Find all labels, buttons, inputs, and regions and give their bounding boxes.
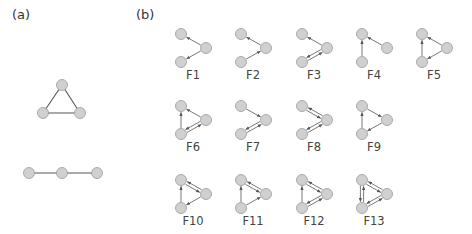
graph-node [357, 29, 368, 40]
directed-edge [186, 51, 200, 59]
graph-node [236, 57, 247, 68]
graph-node [176, 203, 187, 214]
motif-f8: F8 [297, 101, 333, 155]
directed-edge [246, 197, 260, 205]
graph-node [322, 189, 333, 200]
directed-edge [186, 109, 200, 117]
directed-edge [187, 182, 201, 190]
directed-edge [427, 37, 441, 45]
directed-edge [246, 122, 260, 130]
directed-edge [307, 50, 321, 58]
motif-label: F2 [246, 68, 260, 82]
directed-edge [186, 37, 200, 45]
directed-edge [246, 37, 260, 45]
directed-edge [185, 184, 199, 192]
graph-node [236, 101, 247, 112]
directed-edge [308, 198, 322, 206]
graph-line [24, 168, 103, 179]
directed-edge [247, 182, 261, 190]
motif-label: F11 [242, 214, 263, 228]
graph-node [38, 108, 49, 119]
graph-node [176, 101, 187, 112]
graph-node [357, 129, 368, 140]
motif-diagram: F1F2F3F4F5F6F7F8F9F10F11F12F13 [0, 0, 472, 234]
motif-f5: F5 [417, 29, 453, 83]
graph-node [92, 168, 103, 179]
graph-node [24, 168, 35, 179]
graph-node [382, 189, 393, 200]
graph-node [201, 43, 212, 54]
directed-edge [308, 108, 322, 116]
graph-node [176, 175, 187, 186]
graph-node [297, 29, 308, 40]
motif-label: F3 [307, 68, 321, 82]
panel-a-undirected-graphs [24, 80, 103, 179]
graph-node [236, 175, 247, 186]
graph-triangle [38, 80, 86, 119]
graph-node [417, 57, 428, 68]
motif-label: F4 [367, 68, 381, 82]
directed-edge [308, 52, 322, 60]
directed-edge [307, 37, 321, 45]
motif-label: F12 [303, 214, 324, 228]
graph-node [297, 129, 308, 140]
directed-edge [246, 51, 260, 59]
motif-label: F10 [182, 214, 203, 228]
graph-node [236, 129, 247, 140]
directed-edge [367, 109, 381, 117]
motif-label: F7 [246, 140, 260, 154]
directed-edge [427, 51, 441, 59]
motif-label: F13 [363, 214, 384, 228]
motif-f7: F7 [236, 101, 272, 155]
graph-node [357, 175, 368, 186]
graph-node [322, 43, 333, 54]
directed-edge [306, 184, 320, 192]
directed-edge [245, 184, 259, 192]
motif-label: F9 [367, 140, 381, 154]
graph-node [357, 101, 368, 112]
graph-node [261, 115, 272, 126]
directed-edge [186, 122, 200, 130]
directed-edge [368, 198, 382, 206]
graph-node [357, 203, 368, 214]
graph-node [176, 57, 187, 68]
directed-edge [308, 124, 322, 132]
directed-edge [367, 37, 381, 45]
graph-node [382, 115, 393, 126]
graph-node [236, 203, 247, 214]
graph-node [417, 29, 428, 40]
motif-label: F1 [186, 68, 200, 82]
panel-b-directed-motifs: F1F2F3F4F5F6F7F8F9F10F11F12F13 [176, 29, 453, 229]
graph-node [442, 43, 453, 54]
motif-f6: F6 [176, 101, 212, 155]
motif-f3: F3 [297, 29, 333, 83]
graph-node [201, 189, 212, 200]
graph-node [382, 43, 393, 54]
graph-node [57, 168, 68, 179]
directed-edge [307, 122, 321, 130]
motif-f10: F10 [176, 175, 212, 229]
directed-edge [308, 182, 322, 190]
motif-f12: F12 [297, 175, 333, 229]
graph-node [297, 175, 308, 186]
graph-node [201, 115, 212, 126]
graph-node [236, 29, 247, 40]
graph-node [297, 203, 308, 214]
graph-node [57, 80, 68, 91]
motif-f9: F9 [357, 101, 393, 155]
directed-edge [186, 197, 200, 205]
directed-edge [367, 123, 381, 131]
motif-label: F8 [307, 140, 321, 154]
directed-edge [187, 124, 201, 132]
directed-edge [368, 182, 382, 190]
directed-edge [367, 196, 381, 204]
directed-edge [247, 124, 261, 132]
graph-node [297, 57, 308, 68]
motif-f2: F2 [236, 29, 272, 83]
directed-edge [307, 196, 321, 204]
motif-f1: F1 [176, 29, 212, 83]
graph-node [261, 43, 272, 54]
graph-node [297, 101, 308, 112]
motif-f4: F4 [357, 29, 393, 83]
graph-node [261, 189, 272, 200]
